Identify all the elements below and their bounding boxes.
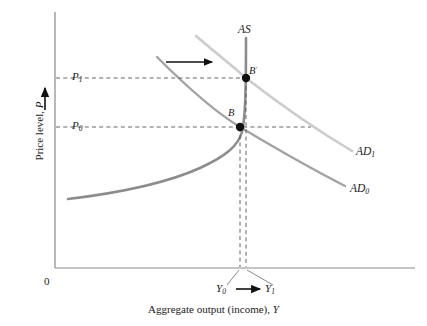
ad1-curve-label: AD1 [356,146,375,159]
price-tick-label-p1: P1 [72,71,82,83]
as-curve-label: AS [238,24,251,36]
equilibrium-point-b [236,123,244,131]
ad0-curve-label: AD0 [350,183,369,196]
economics-ad-as-figure: AS AD1 AD0 B B' P1 P0 Y0 Y1 0 Price leve… [0,0,427,326]
origin-label: 0 [44,276,50,287]
guide-lines-group [56,78,311,267]
axis-group [55,12,415,268]
point-b-label: B [228,108,234,119]
price-tick-label-p0: P0 [72,120,82,132]
point-b-prime-label: B' [249,66,257,77]
x-axis-title: Aggregate output (income), Y [0,303,427,315]
output-tick-label-y0: Y0 [216,283,226,295]
output-tick-label-y1: Y1 [265,283,275,295]
as-curve [68,38,246,199]
y0-leader-line [227,270,239,285]
ad1-curve [196,36,352,151]
plot-canvas [0,0,427,326]
y-axis-title: Price level, P [33,66,45,196]
